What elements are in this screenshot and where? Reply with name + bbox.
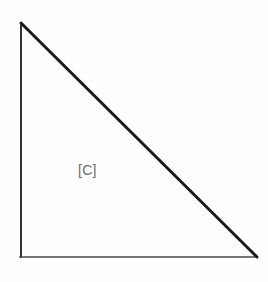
interior-region-label: [C] — [78, 162, 97, 178]
triangle-hypotenuse — [21, 23, 257, 257]
right-triangle-shape — [0, 0, 268, 282]
figure-canvas: [C] — [0, 0, 268, 282]
